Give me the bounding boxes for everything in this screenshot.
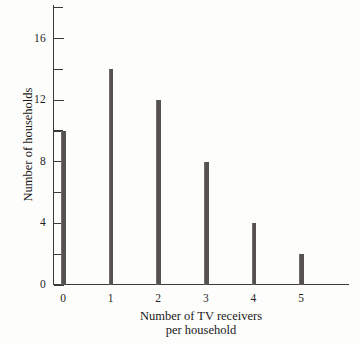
x-axis-line [53, 284, 349, 285]
y-axis-major-tick [54, 100, 64, 101]
x-axis-tick-label: 4 [243, 292, 263, 304]
y-axis-major-tick [54, 38, 64, 39]
y-axis-line [53, 5, 54, 285]
x-axis-title: Number of TV receivers per household [53, 309, 349, 337]
bar [156, 100, 161, 285]
x-axis-tick-label: 3 [196, 292, 216, 304]
x-axis-tick-label: 0 [53, 292, 73, 304]
x-axis-tick-label: 2 [148, 292, 168, 304]
bar [252, 223, 257, 285]
y-axis-title: Number of households [22, 55, 35, 235]
x-axis-tick-label: 1 [101, 292, 121, 304]
chart-figure: 0481216 012345 Number of TV receivers pe… [0, 0, 359, 343]
x-axis-title-line-2: per household [53, 323, 349, 337]
bar [109, 69, 114, 285]
bar [204, 162, 209, 285]
bar [299, 254, 304, 285]
y-axis-minor-tick [54, 7, 63, 8]
y-axis-tick-label: 0 [24, 279, 46, 291]
x-axis-tick-label: 5 [291, 292, 311, 304]
bar [61, 131, 66, 285]
y-axis-minor-tick [54, 69, 63, 70]
y-axis-tick-label: 16 [24, 33, 46, 45]
x-axis-title-line-1: Number of TV receivers [140, 309, 262, 323]
